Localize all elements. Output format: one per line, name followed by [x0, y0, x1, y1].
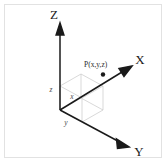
z-component-label: z	[49, 85, 53, 94]
figure-root: Z X Y z x y P(x,y,z)	[0, 0, 168, 164]
x-axis-label: X	[135, 52, 145, 67]
wireframe-top-face	[60, 74, 103, 98]
y-axis-arrowhead-icon	[117, 139, 130, 149]
x-axis-arrowhead-icon	[119, 66, 132, 77]
y-axis-line	[60, 110, 122, 143]
axes-group	[56, 23, 132, 149]
point-p-marker	[101, 72, 105, 76]
z-axis-arrowhead-icon	[56, 23, 64, 35]
point-p-label: P(x,y,z)	[84, 60, 108, 69]
y-component-label: y	[63, 118, 68, 127]
y-axis-label: Y	[134, 144, 144, 159]
coordinate-system-diagram: Z X Y z x y P(x,y,z)	[0, 0, 168, 164]
x-component-label: x	[69, 92, 74, 101]
wireframe-box	[60, 74, 103, 122]
z-axis-label: Z	[50, 7, 58, 22]
